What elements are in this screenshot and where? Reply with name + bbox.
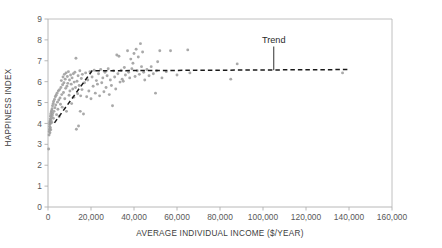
x-tick-label: 40,000 <box>121 212 147 222</box>
scatter-point <box>63 97 66 100</box>
trend-annotation-label: Trend <box>262 35 286 45</box>
scatter-point <box>71 76 74 79</box>
scatter-point <box>53 110 56 113</box>
scatter-point <box>107 67 110 70</box>
scatter-point <box>96 83 99 86</box>
y-tick-label: 8 <box>37 35 42 45</box>
scatter-point <box>111 104 114 107</box>
y-tick-label: 7 <box>37 56 42 66</box>
scatter-point <box>65 110 68 113</box>
scatter-point <box>113 76 116 79</box>
scatter-point <box>56 108 59 111</box>
scatter-point <box>188 71 191 74</box>
scatter-point <box>124 74 127 77</box>
scatter-point <box>128 76 131 79</box>
scatter-point <box>130 67 133 70</box>
scatter-point <box>77 74 80 77</box>
scatter-point <box>51 107 54 110</box>
scatter-point <box>81 73 84 76</box>
scatter-point <box>59 97 62 100</box>
scatter-point <box>70 102 73 105</box>
scatter-point <box>139 42 142 45</box>
scatter-point <box>62 81 65 84</box>
scatter-point <box>133 52 136 55</box>
x-tick-label: 120,000 <box>291 212 322 222</box>
y-tick-label: 2 <box>37 160 42 170</box>
scatter-point <box>110 84 113 87</box>
scatter-point <box>68 90 71 93</box>
scatter-point <box>97 72 100 75</box>
scatter-point <box>47 147 50 150</box>
y-tick-label: 9 <box>37 14 42 24</box>
y-tick-label: 6 <box>37 77 42 87</box>
scatter-point <box>64 78 67 81</box>
y-tick-label: 1 <box>37 181 42 191</box>
scatter-point <box>74 86 77 89</box>
scatter-point <box>75 57 78 60</box>
x-axis-title: AVERAGE INDIVIDUAL INCOME ($/YEAR) <box>48 229 392 238</box>
scatter-point <box>122 80 125 83</box>
scatter-point <box>50 121 53 124</box>
scatter-point <box>53 106 56 109</box>
scatter-point <box>109 79 112 82</box>
scatter-point <box>76 92 79 95</box>
scatter-point <box>87 90 90 93</box>
scatter-point <box>341 71 344 74</box>
scatter-point <box>101 76 104 79</box>
scatter-point <box>53 98 56 101</box>
scatter-point <box>67 70 70 73</box>
scatter-point <box>77 125 80 128</box>
scatter-point <box>119 81 122 84</box>
scatter-point <box>65 85 68 88</box>
scatter-point <box>154 92 157 95</box>
scatter-point <box>152 72 155 75</box>
scatter-point <box>95 79 98 82</box>
scatter-point <box>85 95 88 98</box>
scatter-point <box>68 94 71 97</box>
scatter-point <box>118 55 121 58</box>
scatter-point <box>106 74 109 77</box>
scatter-point <box>55 113 58 116</box>
scatter-point <box>75 128 78 131</box>
scatter-point <box>150 65 153 68</box>
scatter-point <box>59 86 62 89</box>
scatter-point <box>90 97 93 100</box>
y-tick-label: 3 <box>37 139 42 149</box>
scatter-point <box>69 74 72 77</box>
scatter-point <box>236 62 239 65</box>
scatter-point <box>71 88 74 91</box>
scatter-point <box>62 91 65 94</box>
scatter-point <box>102 90 105 93</box>
scatter-point <box>229 78 232 81</box>
y-tick-label: 5 <box>37 98 42 108</box>
scatter-point <box>78 69 81 72</box>
scatter-point <box>66 82 69 85</box>
scatter-point <box>186 48 189 51</box>
scatter-point <box>61 106 64 109</box>
scatter-points-group <box>47 42 344 150</box>
scatter-point <box>105 86 108 89</box>
y-tick-label: 0 <box>37 202 42 212</box>
scatter-point <box>81 88 84 91</box>
scatter-point <box>73 81 76 84</box>
scatter-point <box>140 65 143 68</box>
scatter-point <box>92 85 95 88</box>
x-tick-label: 20,000 <box>78 212 104 222</box>
scatter-point <box>169 49 172 52</box>
scatter-point <box>52 117 55 120</box>
scatter-point <box>94 92 97 95</box>
scatter-point <box>148 74 151 77</box>
scatter-point <box>126 49 129 52</box>
scatter-point <box>123 66 126 69</box>
scatter-point <box>60 79 63 82</box>
x-tick-label: 60,000 <box>164 212 190 222</box>
scatter-point <box>62 76 65 79</box>
happiness-income-scatter-chart: HAPPINESS INDEX 0123456789020,00040,0006… <box>0 0 442 248</box>
scatter-point <box>98 94 101 97</box>
scatter-point <box>59 103 62 106</box>
scatter-point <box>80 77 83 80</box>
y-tick-label: 4 <box>37 119 42 129</box>
scatter-point <box>66 75 69 78</box>
scatter-point <box>79 110 82 113</box>
x-tick-label: 0 <box>46 212 51 222</box>
